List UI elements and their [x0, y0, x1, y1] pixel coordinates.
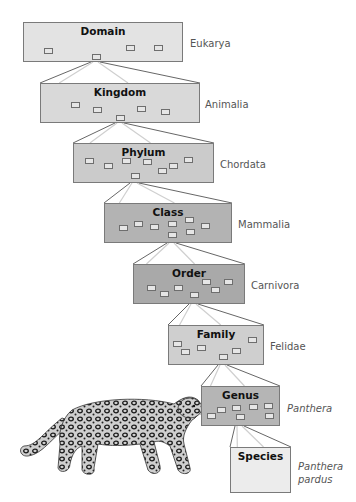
- member-group-icon: [143, 159, 152, 165]
- member-group-icon: [264, 403, 273, 409]
- rank-box-species: Species: [230, 447, 291, 493]
- member-group-icon: [122, 158, 131, 164]
- member-group-icon: [190, 292, 199, 298]
- rank-title: Species: [231, 450, 290, 462]
- member-group-icon: [207, 413, 216, 419]
- member-group-icon: [197, 345, 206, 351]
- member-group-icon: [236, 414, 245, 420]
- member-group-icon: [160, 291, 169, 297]
- member-group-icon: [185, 217, 194, 223]
- member-group-icon: [201, 223, 210, 229]
- member-group-icon: [85, 158, 94, 164]
- rank-title: Genus: [202, 389, 279, 401]
- taxon-label-order: Carnivora: [251, 279, 299, 292]
- rank-title: Class: [105, 206, 231, 218]
- taxon-line: Panthera: [298, 460, 343, 473]
- member-group-icon: [219, 354, 228, 360]
- rank-box-genus: Genus: [201, 386, 280, 426]
- member-group-icon: [265, 413, 274, 419]
- member-group-icon: [186, 229, 195, 235]
- member-group-icon: [92, 54, 101, 60]
- rank-box-order: Order: [133, 264, 245, 304]
- member-group-icon: [174, 285, 183, 291]
- member-group-icon: [173, 341, 182, 347]
- member-group-icon: [184, 157, 193, 163]
- member-group-icon: [224, 279, 233, 285]
- taxon-label-family: Felidae: [270, 340, 306, 353]
- member-group-icon: [202, 279, 211, 285]
- taxon-label-species: Pantherapardus: [298, 460, 343, 486]
- member-group-icon: [158, 168, 167, 174]
- rank-box-family: Family: [168, 325, 264, 365]
- taxon-label-genus: Panthera: [287, 402, 332, 415]
- member-group-icon: [137, 106, 146, 112]
- member-group-icon: [44, 48, 53, 54]
- member-group-icon: [169, 163, 178, 169]
- member-group-icon: [217, 407, 226, 413]
- member-group-icon: [232, 405, 241, 411]
- member-group-icon: [71, 102, 80, 108]
- taxon-line: pardus: [298, 473, 343, 486]
- member-group-icon: [116, 115, 125, 121]
- member-group-icon: [150, 224, 159, 230]
- member-group-icon: [161, 109, 170, 115]
- member-group-icon: [248, 337, 257, 343]
- member-group-icon: [168, 221, 177, 227]
- member-group-icon: [147, 285, 156, 291]
- member-group-icon: [211, 287, 220, 293]
- leopard-illustration: [14, 384, 204, 484]
- rank-box-phylum: Phylum: [73, 143, 214, 183]
- rank-box-domain: Domain: [23, 22, 183, 62]
- rank-box-kingdom: Kingdom: [40, 83, 200, 123]
- member-group-icon: [232, 348, 241, 354]
- rank-title: Kingdom: [41, 86, 199, 98]
- member-group-icon: [131, 173, 140, 179]
- member-group-icon: [134, 221, 143, 227]
- taxon-label-phylum: Chordata: [220, 158, 266, 171]
- taxon-label-domain: Eukarya: [190, 37, 231, 50]
- taxon-label-class: Mammalia: [238, 218, 290, 231]
- member-group-icon: [119, 225, 128, 231]
- member-group-icon: [181, 349, 190, 355]
- member-group-icon: [104, 163, 113, 169]
- rank-title: Order: [134, 267, 244, 279]
- member-group-icon: [126, 45, 135, 51]
- taxon-label-kingdom: Animalia: [205, 98, 249, 111]
- taxonomy-diagram: DomainEukaryaKingdomAnimaliaPhylumChorda…: [0, 0, 356, 502]
- member-group-icon: [93, 107, 102, 113]
- member-group-icon: [249, 404, 258, 410]
- rank-title: Domain: [24, 25, 182, 37]
- member-group-icon: [154, 45, 163, 51]
- member-group-icon: [168, 232, 177, 238]
- rank-box-class: Class: [104, 203, 232, 243]
